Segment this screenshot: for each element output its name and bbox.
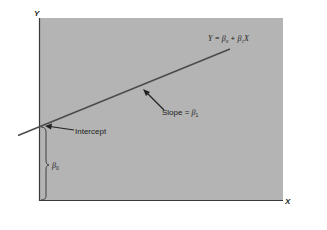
intercept-label: Intercept	[75, 127, 107, 136]
regression-diagram: Y X Y = β0 + β1X Slope = β1 Intercept β0	[0, 0, 327, 230]
plot-area	[39, 18, 283, 201]
x-axis-label: X	[284, 197, 291, 206]
equation-label: Y = β0 + β1X	[208, 34, 250, 44]
y-axis-label: Y	[34, 9, 40, 18]
slope-label: Slope = β1	[162, 108, 199, 118]
